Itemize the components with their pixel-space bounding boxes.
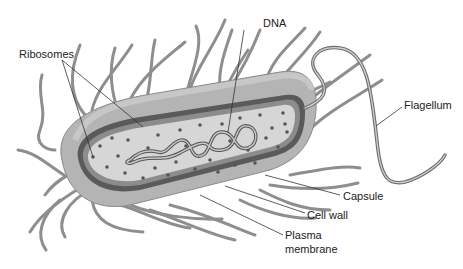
label-flagellum: Flagellum [404, 99, 452, 111]
label-cell-wall: Cell wall [307, 209, 348, 221]
label-plasma-membrane-line2: membrane [285, 243, 338, 255]
label-capsule: Capsule [343, 190, 383, 202]
label-plasma-membrane-line1: Plasma [285, 229, 338, 241]
label-ribosomes: Ribosomes [19, 48, 74, 60]
bacterial-cell-diagram [0, 0, 463, 269]
label-plasma-membrane: Plasma membrane [285, 229, 338, 255]
label-dna: DNA [263, 17, 286, 29]
